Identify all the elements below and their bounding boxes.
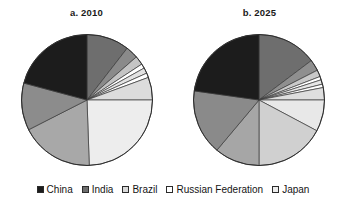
square-swatch-icon xyxy=(82,186,89,193)
pie-slice xyxy=(194,35,259,101)
panel-b-pie-holder xyxy=(173,20,346,170)
legend-label: Japan xyxy=(282,184,309,195)
square-swatch-icon xyxy=(166,186,173,193)
chart-panel-b: b. 2025 xyxy=(173,0,346,176)
pie-chart-b xyxy=(173,20,346,170)
legend-item-brazil: Brazil xyxy=(122,184,157,195)
square-swatch-icon xyxy=(37,186,44,193)
panel-b-title: b. 2025 xyxy=(173,7,346,19)
legend: China India Brazil Russian Federation Ja… xyxy=(0,178,346,200)
square-swatch-icon xyxy=(272,186,279,193)
legend-label: Russian Federation xyxy=(176,184,263,195)
legend-label: Brazil xyxy=(132,184,157,195)
chart-panel-a: a. 2010 xyxy=(0,0,173,176)
panel-a-pie-holder xyxy=(0,20,173,170)
pie-chart-a xyxy=(0,20,173,170)
legend-item-china: China xyxy=(37,184,73,195)
legend-item-india: India xyxy=(82,184,114,195)
legend-item-russian-federation: Russian Federation xyxy=(166,184,263,195)
legend-item-japan: Japan xyxy=(272,184,309,195)
square-swatch-icon xyxy=(122,186,129,193)
pie-slice xyxy=(87,100,153,165)
figure-pie-chart-pair: a. 2010 b. 2025 China India Brazil Russi… xyxy=(0,0,346,203)
legend-label: China xyxy=(47,184,73,195)
legend-label: India xyxy=(92,184,114,195)
panel-a-title: a. 2010 xyxy=(0,7,173,19)
